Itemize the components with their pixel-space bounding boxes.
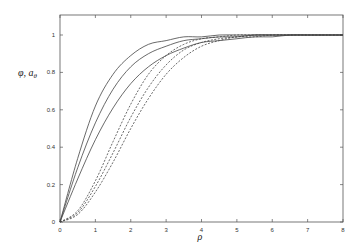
- y-tick-label: 0.2: [47, 182, 56, 188]
- x-tick-label: 1: [94, 227, 98, 233]
- y-tick-label: 0.4: [47, 144, 56, 150]
- solid-curve: [60, 35, 343, 222]
- y-tick-label: 0.6: [47, 107, 56, 113]
- solid-curve: [60, 35, 343, 222]
- dashed-curve: [60, 35, 343, 222]
- x-tick-label: 2: [129, 227, 133, 233]
- dashed-curve: [60, 35, 343, 222]
- y-tick-label: 1: [52, 32, 56, 38]
- line-chart: 01234567800.20.40.60.81 ρ φ, aθ: [0, 0, 360, 249]
- axis-ticks: 01234567800.20.40.60.81: [47, 15, 346, 233]
- solid-curve: [60, 35, 343, 222]
- x-tick-label: 5: [235, 227, 239, 233]
- y-tick-label: 0: [52, 219, 56, 225]
- y-axis-label: φ, aθ: [18, 67, 38, 80]
- x-tick-label: 8: [341, 227, 345, 233]
- x-tick-label: 6: [271, 227, 275, 233]
- x-tick-label: 3: [164, 227, 168, 233]
- curves: [60, 35, 343, 222]
- y-tick-label: 0.8: [47, 69, 56, 75]
- dashed-curve: [60, 35, 343, 222]
- x-tick-label: 0: [58, 227, 62, 233]
- x-tick-label: 7: [306, 227, 310, 233]
- x-axis-label: ρ: [197, 231, 203, 242]
